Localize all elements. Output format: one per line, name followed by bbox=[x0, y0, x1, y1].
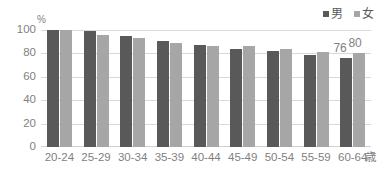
x-tick-50-54: 50-54 bbox=[261, 152, 298, 164]
x-tick-25-29: 25-29 bbox=[78, 152, 115, 164]
y-tick-80: 80 bbox=[0, 48, 36, 60]
bar-group bbox=[151, 30, 188, 147]
y-axis: 100 80 60 40 20 0 bbox=[0, 30, 36, 147]
bar-male bbox=[304, 55, 316, 147]
bar-group bbox=[298, 30, 335, 147]
bar-male bbox=[267, 51, 279, 147]
bar-value-label: 76 bbox=[333, 42, 346, 54]
bar-female bbox=[133, 38, 145, 147]
bar-male bbox=[157, 41, 169, 147]
legend-label-male: 男 bbox=[331, 8, 343, 20]
legend-item-female: 女 bbox=[354, 8, 374, 20]
x-tick-40-44: 40-44 bbox=[188, 152, 225, 164]
y-tick-20: 20 bbox=[0, 118, 36, 130]
x-axis-unit-label: 歳 bbox=[365, 152, 376, 164]
bar-female bbox=[353, 53, 365, 147]
y-tick-60: 60 bbox=[0, 71, 36, 83]
x-tick-55-59: 55-59 bbox=[298, 152, 335, 164]
bar-male bbox=[84, 31, 96, 147]
y-tick-40: 40 bbox=[0, 94, 36, 106]
x-tick-45-49: 45-49 bbox=[224, 152, 261, 164]
bar-group bbox=[41, 30, 78, 147]
bar-group: 7680 bbox=[334, 30, 371, 147]
chart-legend: 男 女 bbox=[323, 8, 374, 20]
y-tick-100: 100 bbox=[0, 24, 36, 36]
bar-value-label: 80 bbox=[348, 37, 361, 49]
bar-male bbox=[47, 30, 59, 147]
y-axis-unit-label: % bbox=[37, 15, 46, 25]
y-tick-0: 0 bbox=[0, 141, 36, 153]
bar-male bbox=[120, 36, 132, 147]
bar-male bbox=[340, 58, 352, 147]
bar-group bbox=[114, 30, 151, 147]
bar-female bbox=[60, 30, 72, 147]
bar-group bbox=[261, 30, 298, 147]
x-tick-20-24: 20-24 bbox=[41, 152, 78, 164]
bar-groups: 7680 bbox=[41, 30, 371, 147]
legend-swatch-female bbox=[354, 11, 360, 17]
legend-swatch-male bbox=[323, 11, 329, 17]
bar-female bbox=[97, 35, 109, 147]
bar-female bbox=[243, 46, 255, 147]
legend-item-male: 男 bbox=[323, 8, 343, 20]
x-tick-30-34: 30-34 bbox=[114, 152, 151, 164]
bar-female bbox=[317, 52, 329, 147]
x-axis: 20-2425-2930-3435-3940-4445-4950-5455-59… bbox=[41, 152, 371, 164]
bar-group bbox=[78, 30, 115, 147]
bar-male bbox=[230, 49, 242, 147]
bar-group bbox=[188, 30, 225, 147]
bar-female bbox=[170, 43, 182, 147]
bar-group bbox=[224, 30, 261, 147]
x-tick-35-39: 35-39 bbox=[151, 152, 188, 164]
bar-female bbox=[280, 49, 292, 147]
bar-female bbox=[207, 46, 219, 147]
bar-male bbox=[194, 45, 206, 147]
bar-chart: 男 女 % 100 80 60 40 20 0 7680 20-2425-293… bbox=[0, 0, 382, 180]
legend-label-female: 女 bbox=[362, 8, 374, 20]
